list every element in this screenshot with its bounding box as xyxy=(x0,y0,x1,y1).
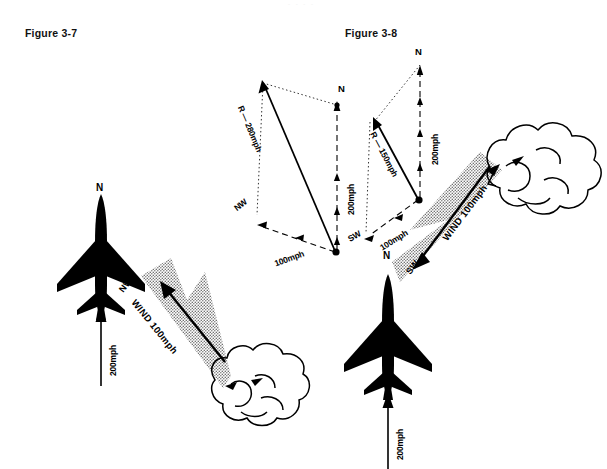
figure-3-7-airspeed-arrow xyxy=(96,306,107,386)
figure-3-8-caption: Figure 3-8 xyxy=(345,27,397,39)
page-header-artifact: - - - - xyxy=(288,1,315,7)
figure-3-7-storm-cloud xyxy=(212,344,310,426)
aircraft-vector-mid-arrow-1 xyxy=(417,97,423,105)
figure-3-8-scene: N SW WIND 100mph 200mph xyxy=(330,110,605,469)
figure-3-8-north-label: N xyxy=(415,46,422,57)
north-vector-tip-dot xyxy=(334,102,339,107)
figure-3-7-scene-svg xyxy=(55,180,315,440)
figure-3-8-scene-svg xyxy=(330,110,605,469)
figure-3-7-north-label: N xyxy=(338,83,345,94)
figure-3-8-aircraft-silhouette xyxy=(344,274,432,400)
aircraft-vector-arrowhead xyxy=(417,65,423,75)
document-page: - - - - Figure 3-7 N 20 xyxy=(0,0,607,469)
construction-line-top xyxy=(263,83,337,105)
figure-3-7-caption: Figure 3-7 xyxy=(25,27,77,39)
figure-3-7-scene-compass-label: N xyxy=(96,182,103,193)
figure-3-8-scene-compass-label: N xyxy=(383,250,390,261)
figure-3-8-scene-airspeed-label: 200mph xyxy=(395,429,405,460)
figure-3-7-scene-airspeed-label: 200mph xyxy=(108,345,118,376)
figure-3-7-cloud-accent-2 xyxy=(251,378,263,386)
figure-3-8-airspeed-arrow xyxy=(383,392,394,469)
figure-3-7-scene: N xyxy=(55,180,315,440)
figure-3-8-storm-cloud xyxy=(487,123,601,214)
